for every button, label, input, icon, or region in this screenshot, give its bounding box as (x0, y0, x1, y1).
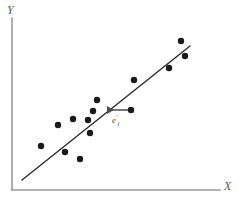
data-point (55, 122, 61, 128)
x-axis-label: X (224, 180, 231, 192)
data-point (70, 116, 76, 122)
regression-line (22, 46, 190, 180)
data-point (38, 143, 44, 149)
data-point (178, 38, 184, 44)
data-point (85, 117, 91, 123)
data-point (90, 108, 96, 114)
scatter-points-group (38, 38, 188, 162)
scatter-plot-figure: Y X e′i (0, 0, 238, 206)
data-point (62, 149, 68, 155)
residual-label: e′i (112, 114, 119, 127)
data-point (128, 107, 134, 113)
data-point (166, 65, 172, 71)
data-point (94, 97, 100, 103)
data-point (182, 53, 188, 59)
y-axis-label: Y (7, 4, 14, 16)
data-point (131, 77, 137, 83)
data-point (87, 130, 93, 136)
plot-canvas (0, 0, 238, 206)
data-point (77, 156, 83, 162)
residual-label-subscript: i (117, 120, 119, 127)
